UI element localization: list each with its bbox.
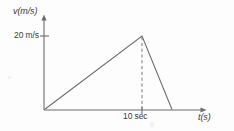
velocity-data-line [45, 36, 173, 110]
y-axis-tick-label-20: 20 m/s [14, 31, 39, 40]
x-axis-tick-label-10: 10 sec [123, 112, 147, 121]
x-axis-label: t(s) [198, 113, 211, 122]
y-axis-label: v(m/s) [13, 7, 37, 16]
y-axis-arrow-icon [41, 15, 46, 21]
velocity-time-graph-figure: v(m/s) 20 m/s 10 sec t(s) [0, 0, 234, 131]
